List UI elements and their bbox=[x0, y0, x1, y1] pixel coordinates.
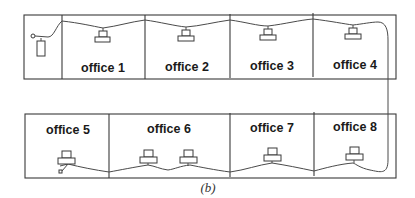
computer-office-5 bbox=[58, 151, 75, 173]
monitor-icon bbox=[99, 31, 107, 37]
computer-office-6b bbox=[180, 150, 197, 166]
network-diagram: office 1 office 2 office 3 office 4 offi… bbox=[0, 0, 415, 198]
computer-office-8 bbox=[346, 147, 363, 163]
terminator-icon bbox=[59, 170, 62, 173]
computer-office-2 bbox=[178, 27, 194, 41]
server-room-devices bbox=[31, 34, 45, 56]
computer-office-7 bbox=[264, 148, 281, 163]
office-4-label: office 4 bbox=[333, 58, 377, 72]
office-8-label: office 8 bbox=[333, 120, 377, 134]
office-3-label: office 3 bbox=[250, 59, 294, 73]
office-7-label: office 7 bbox=[250, 121, 294, 135]
server-icon bbox=[37, 41, 45, 56]
computer-office-1 bbox=[95, 28, 110, 42]
computer-office-3 bbox=[260, 26, 276, 40]
figure-caption: (b) bbox=[200, 180, 215, 195]
computer-office-6a bbox=[140, 150, 157, 165]
office-1-label: office 1 bbox=[81, 61, 125, 75]
computer-office-4 bbox=[345, 25, 361, 39]
bus-cable bbox=[35, 19, 388, 172]
office-5-label: office 5 bbox=[46, 123, 90, 137]
office-2-label: office 2 bbox=[165, 60, 209, 74]
office-6-label: office 6 bbox=[147, 122, 191, 136]
keyboard-base-icon bbox=[95, 37, 110, 42]
terminator-icon bbox=[31, 34, 35, 38]
